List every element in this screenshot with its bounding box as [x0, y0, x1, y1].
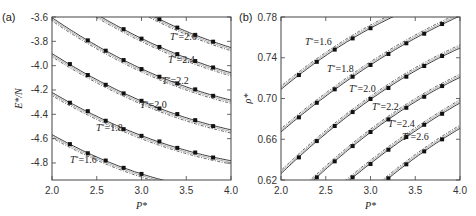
x-tick-label: 2.0 [45, 185, 59, 196]
y-tick-label: 0.74 [258, 52, 278, 63]
data-marker [404, 41, 408, 45]
data-marker [440, 137, 444, 141]
series-label: T*=1.8 [327, 63, 354, 74]
data-marker [193, 87, 197, 91]
data-marker [440, 22, 444, 26]
series-label: T*=2.6 [170, 31, 197, 42]
data-marker [68, 62, 72, 66]
data-marker [369, 26, 373, 30]
data-marker [404, 75, 408, 79]
data-marker [297, 73, 301, 77]
fit-line-mid [43, 49, 240, 133]
data-marker [140, 134, 144, 138]
chart-panel-a: (a)-3.6-3.8-4.0-4.2-4.4-4.6-4.82.02.53.0… [2, 0, 240, 211]
data-marker [422, 149, 426, 153]
data-marker [333, 48, 337, 52]
data-marker [86, 73, 90, 77]
data-marker [211, 40, 215, 44]
data-marker [386, 148, 390, 152]
data-marker [122, 27, 126, 31]
data-marker [193, 118, 197, 122]
data-marker [211, 124, 215, 128]
fit-line-dashed [43, 0, 240, 53]
data-marker [351, 36, 355, 40]
fit-line-dashed [272, 95, 469, 216]
data-marker [104, 49, 108, 53]
data-marker [157, 45, 161, 49]
data-marker [122, 58, 126, 62]
fit-line-solid [272, 98, 469, 216]
data-marker [104, 83, 108, 87]
data-marker [351, 75, 355, 79]
panel-label-b: (b) [239, 11, 252, 23]
data-marker [211, 155, 215, 159]
x-tick-label: 3.5 [408, 185, 422, 196]
x-tick-label: 4.0 [224, 185, 238, 196]
series-label: T*=2.4 [388, 118, 415, 129]
series-2-0 [43, 48, 240, 135]
y-tick-label: 0.62 [258, 175, 278, 186]
data-marker [68, 101, 72, 105]
data-marker [140, 37, 144, 41]
y-tick-label: 0.66 [258, 134, 278, 145]
y-tick-label: 0.70 [258, 93, 278, 104]
y-tick-label: -3.8 [31, 36, 49, 47]
series-2-2 [43, 12, 240, 106]
fit-line-solid [43, 48, 240, 132]
series-label: T*=1.8 [96, 122, 123, 133]
panel-label-a: (a) [2, 11, 15, 23]
y-axis-label: ρ* [242, 94, 253, 105]
data-marker [351, 110, 355, 114]
data-marker [351, 175, 355, 179]
data-marker [404, 106, 408, 110]
data-marker [351, 144, 355, 148]
data-marker [386, 52, 390, 56]
data-marker [315, 175, 319, 179]
data-marker [157, 75, 161, 79]
data-marker [369, 63, 373, 67]
curves [272, 0, 469, 216]
x-tick-label: 3.0 [364, 185, 378, 196]
data-marker [422, 32, 426, 36]
x-tick-label: 2.5 [319, 185, 333, 196]
fit-line-solid [43, 0, 240, 50]
data-marker [68, 142, 72, 146]
data-marker [86, 38, 90, 42]
fit-line-mid [43, 0, 240, 52]
fit-line-solid [272, 12, 469, 140]
series-label: T*=2.4 [168, 54, 195, 65]
data-marker [386, 86, 390, 90]
x-tick-label: 2.5 [90, 185, 104, 196]
data-marker [440, 112, 444, 116]
chart-panel-b: (b)0.780.740.700.660.622.02.53.03.54.0P*… [239, 0, 469, 216]
series-label: T*=2.2 [162, 75, 189, 86]
y-tick-label: 0.78 [258, 12, 278, 23]
data-marker [175, 26, 179, 30]
data-marker [104, 159, 108, 163]
data-marker [175, 146, 179, 150]
series-label: T*=2.6 [402, 131, 429, 142]
data-marker [193, 151, 197, 155]
data-marker [404, 162, 408, 166]
data-marker [157, 139, 161, 143]
x-axis-label: P* [364, 200, 376, 211]
x-axis-label: P* [135, 200, 147, 211]
series-label: T*=1.6 [305, 36, 332, 47]
series-label: T*=2.2 [372, 101, 399, 112]
series-label: T*=2.0 [140, 99, 167, 110]
data-marker [422, 64, 426, 68]
fit-line-mid [43, 13, 240, 104]
series-2-0 [272, 41, 469, 182]
y-axis-label: E*/N [13, 87, 24, 110]
fit-line-dashed [43, 15, 240, 106]
data-marker [297, 115, 301, 119]
fit-line-mid [272, 96, 469, 216]
data-marker [122, 166, 126, 170]
data-marker [297, 155, 301, 159]
figure: (a)-3.6-3.8-4.0-4.2-4.4-4.6-4.82.02.53.0… [0, 0, 476, 216]
y-tick-label: -3.6 [31, 12, 49, 23]
data-marker [140, 67, 144, 71]
data-marker [440, 84, 444, 88]
data-marker [122, 91, 126, 95]
y-tick-label: -4.2 [31, 84, 49, 95]
